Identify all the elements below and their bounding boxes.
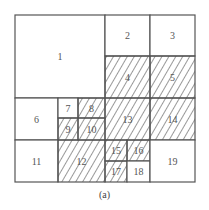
cell-9: 9 xyxy=(58,118,78,140)
cell-label: 7 xyxy=(66,103,71,114)
cell-8: 8 xyxy=(78,98,105,118)
cell-7: 7 xyxy=(58,98,78,118)
cell-13: 13 xyxy=(105,98,150,140)
cell-18: 18 xyxy=(127,161,150,182)
cell-11: 11 xyxy=(15,140,58,182)
cell-2: 2 xyxy=(105,15,150,56)
cell-label: 3 xyxy=(170,30,175,41)
cell-label: 12 xyxy=(77,156,87,167)
cell-label: 17 xyxy=(111,166,121,177)
figure-caption: (a) xyxy=(0,189,209,200)
cell-label: 18 xyxy=(134,166,144,177)
cell-16: 16 xyxy=(127,140,150,161)
cell-label: 9 xyxy=(66,124,71,135)
cell-label: 8 xyxy=(89,103,94,114)
cell-17: 17 xyxy=(105,161,127,182)
cell-label: 13 xyxy=(123,114,133,125)
cell-1: 1 xyxy=(15,15,105,98)
cell-12: 12 xyxy=(58,140,105,182)
cell-label: 11 xyxy=(32,156,42,167)
cell-14: 14 xyxy=(150,98,195,140)
cell-4: 4 xyxy=(105,56,150,98)
cell-3: 3 xyxy=(150,15,195,56)
quadtree-partition-diagram: 12345678910111213141516171819 xyxy=(0,0,209,210)
cell-label: 16 xyxy=(134,145,144,156)
cell-10: 10 xyxy=(78,118,105,140)
cell-5: 5 xyxy=(150,56,195,98)
cell-19: 19 xyxy=(150,140,195,182)
cell-label: 10 xyxy=(87,124,97,135)
cell-label: 4 xyxy=(125,72,130,83)
cell-label: 2 xyxy=(125,30,130,41)
cell-label: 19 xyxy=(168,156,178,167)
cell-label: 5 xyxy=(170,72,175,83)
cell-label: 14 xyxy=(168,114,178,125)
cell-label: 1 xyxy=(58,51,63,62)
cell-6: 6 xyxy=(15,98,58,140)
cell-label: 6 xyxy=(34,114,39,125)
cell-label: 15 xyxy=(111,145,121,156)
cell-15: 15 xyxy=(105,140,127,161)
